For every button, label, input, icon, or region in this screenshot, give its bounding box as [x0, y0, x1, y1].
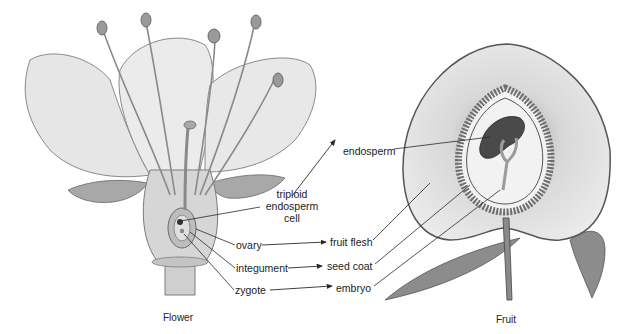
label-zygote: zygote	[235, 284, 266, 296]
flower-zygote	[180, 229, 184, 233]
label-endosperm: endosperm	[343, 145, 396, 157]
fruit-illustration	[373, 44, 610, 300]
flower-endosperm-cell	[177, 219, 183, 225]
fruit-leaf-left	[385, 238, 520, 300]
label-triploid-endosperm-cell: triploid endosperm cell	[262, 188, 322, 224]
label-fruit-flesh: fruit flesh	[330, 236, 373, 248]
label-triploid-line1: triploid	[262, 188, 322, 200]
diagram-artwork	[0, 0, 620, 334]
flower-illustration	[25, 13, 316, 295]
flower-petal-right	[205, 58, 316, 172]
label-embryo: embryo	[336, 282, 371, 294]
label-ovary: ovary	[236, 239, 262, 251]
caption-fruit: Fruit	[496, 314, 516, 325]
caption-flower: Flower	[163, 312, 193, 323]
fruit-leaf-right	[570, 231, 605, 298]
label-integument: integument	[236, 262, 288, 274]
fruit-stalk	[503, 218, 512, 300]
label-seed-coat: seed coat	[327, 260, 373, 272]
flower-sepal-left	[68, 180, 148, 202]
label-triploid-line3: cell	[262, 212, 322, 224]
label-triploid-line2: endosperm	[262, 200, 322, 212]
